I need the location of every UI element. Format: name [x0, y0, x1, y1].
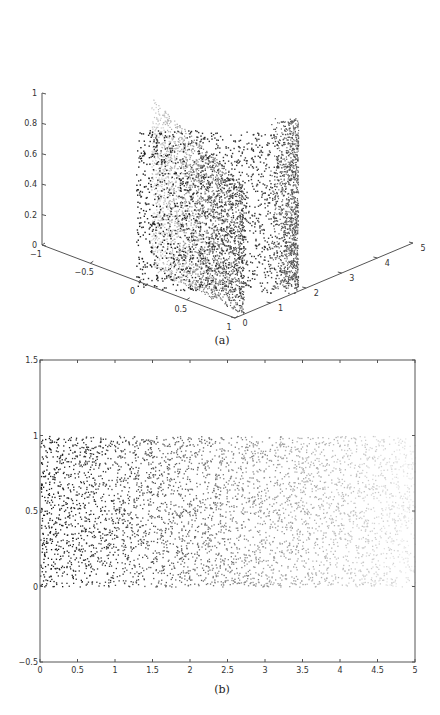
svg-text:−1: −1	[30, 250, 42, 259]
svg-text:0.5: 0.5	[71, 666, 84, 675]
svg-text:−0.5: −0.5	[19, 658, 38, 667]
svg-text:1.5: 1.5	[146, 666, 159, 675]
svg-text:0: 0	[37, 666, 42, 675]
svg-text:4.5: 4.5	[371, 666, 384, 675]
svg-text:0.5: 0.5	[25, 507, 38, 516]
plot-b-axes-box	[40, 360, 415, 662]
svg-text:0.4: 0.4	[24, 180, 37, 189]
svg-text:1: 1	[112, 666, 117, 675]
svg-text:0.6: 0.6	[24, 150, 37, 159]
plot-a-points	[136, 100, 299, 314]
svg-text:4: 4	[385, 259, 390, 268]
svg-text:0: 0	[32, 241, 37, 250]
figure: 00.20.40.60.81 −1−0.500.51 012345 (a) 00…	[0, 0, 440, 715]
plot-b-2d-scatter: 00.511.522.533.544.55 −0.500.511.5 (b)	[19, 356, 418, 696]
svg-text:−0.5: −0.5	[75, 268, 94, 277]
plot-b-y-ticks: −0.500.511.5	[19, 356, 415, 667]
svg-text:4: 4	[337, 666, 342, 675]
svg-text:0.2: 0.2	[24, 211, 37, 220]
plot-a-axes	[42, 93, 413, 318]
svg-text:1: 1	[32, 89, 37, 98]
svg-text:1: 1	[278, 304, 283, 313]
svg-text:0.8: 0.8	[24, 119, 37, 128]
svg-text:3.5: 3.5	[296, 666, 309, 675]
svg-text:2: 2	[314, 289, 319, 298]
svg-text:0: 0	[33, 583, 38, 592]
svg-text:0: 0	[242, 319, 247, 328]
plot-a-3d-scatter: 00.20.40.60.81 −1−0.500.51 012345 (a)	[24, 89, 425, 347]
plot-b-caption: (b)	[214, 683, 230, 696]
plot-b-points	[40, 436, 416, 588]
svg-text:5: 5	[420, 244, 425, 253]
svg-text:2: 2	[187, 666, 192, 675]
svg-text:3: 3	[262, 666, 267, 675]
svg-text:2.5: 2.5	[221, 666, 234, 675]
svg-text:5: 5	[412, 666, 417, 675]
svg-text:3: 3	[349, 274, 354, 283]
plot-a-caption: (a)	[214, 334, 229, 347]
svg-text:1.5: 1.5	[25, 356, 38, 365]
plot-a-x-ticks: −1−0.500.51	[30, 243, 238, 332]
svg-text:1: 1	[226, 323, 231, 332]
svg-text:0.5: 0.5	[174, 305, 187, 314]
plot-a-z-ticks: 00.20.40.60.81	[24, 89, 46, 250]
svg-text:1: 1	[33, 432, 38, 441]
svg-text:0: 0	[130, 287, 135, 296]
